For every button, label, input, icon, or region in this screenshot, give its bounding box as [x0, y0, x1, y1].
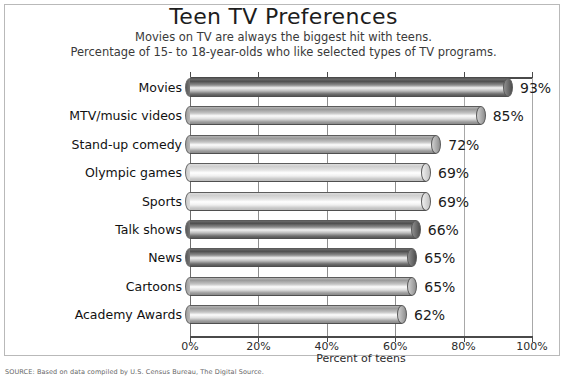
bar-row: Academy Awards62%: [0, 305, 567, 326]
bar-value-label: 65%: [424, 248, 455, 267]
bar-value-label: 93%: [520, 78, 551, 97]
source-note: SOURCE: Based on data compiled by U.S. C…: [5, 368, 264, 376]
bar[interactable]: [190, 305, 402, 324]
bar-row: Cartoons65%: [0, 277, 567, 298]
bar-body: [190, 220, 416, 239]
chart-subtitle-primary: Movies on TV are always the biggest hit …: [0, 30, 567, 45]
bar[interactable]: [190, 163, 426, 182]
bar-cap-right: [407, 248, 417, 267]
bar-row: Olympic games69%: [0, 163, 567, 184]
bar-cap-right: [407, 277, 417, 296]
bar-value-label: 65%: [424, 277, 455, 296]
bar-row: Talk shows66%: [0, 220, 567, 241]
category-label: Academy Awards: [0, 307, 182, 322]
bar-value-label: 69%: [438, 163, 469, 182]
axis-line-bottom: [190, 336, 532, 338]
category-label: Stand-up comedy: [0, 137, 182, 152]
bar-row: MTV/music videos85%: [0, 106, 567, 127]
x-axis-title: Percent of teens: [190, 352, 532, 365]
bar-value-label: 85%: [493, 106, 524, 125]
bar-value-label: 62%: [414, 305, 445, 324]
bar[interactable]: [190, 277, 412, 296]
category-label: Olympic games: [0, 165, 182, 180]
bar-body: [190, 305, 402, 324]
bar[interactable]: [190, 248, 412, 267]
bar[interactable]: [190, 106, 481, 125]
bar-body: [190, 163, 426, 182]
bar-cap-right: [397, 305, 407, 324]
bar-body: [190, 192, 426, 211]
bar-cap-right: [421, 163, 431, 182]
chart-subtitle-secondary: Percentage of 15- to 18-year-olds who li…: [0, 45, 567, 60]
chart-container: Teen TV Preferences Movies on TV are alw…: [0, 0, 567, 378]
bar-value-label: 72%: [448, 135, 479, 154]
bar-cap-right: [476, 106, 486, 125]
category-label: MTV/music videos: [0, 108, 182, 123]
bar-row: Sports69%: [0, 192, 567, 213]
bar-row: Stand-up comedy72%: [0, 135, 567, 156]
bar-cap-right: [431, 135, 441, 154]
category-label: Movies: [0, 80, 182, 95]
bar-cap-right: [411, 220, 421, 239]
bar-row: News65%: [0, 248, 567, 269]
chart-header: Teen TV Preferences Movies on TV are alw…: [0, 4, 567, 60]
bar-row: Movies93%: [0, 78, 567, 99]
bar-cap-right: [503, 78, 513, 97]
chart-title: Teen TV Preferences: [0, 4, 567, 30]
bar-body: [190, 78, 508, 97]
bar[interactable]: [190, 78, 508, 97]
category-label: Talk shows: [0, 222, 182, 237]
bar-value-label: 66%: [428, 220, 459, 239]
bar[interactable]: [190, 220, 416, 239]
category-label: Sports: [0, 194, 182, 209]
bar-cap-right: [421, 192, 431, 211]
bar-body: [190, 106, 481, 125]
bar-value-label: 69%: [438, 192, 469, 211]
bar[interactable]: [190, 135, 436, 154]
bar-body: [190, 135, 436, 154]
category-label: News: [0, 250, 182, 265]
bar[interactable]: [190, 192, 426, 211]
category-label: Cartoons: [0, 279, 182, 294]
bar-body: [190, 277, 412, 296]
bar-body: [190, 248, 412, 267]
